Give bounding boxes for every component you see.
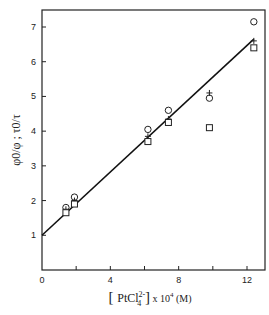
y-tick-label: 5	[31, 91, 36, 101]
plus-marker	[206, 90, 212, 96]
plot-border	[42, 10, 265, 270]
data-points	[63, 19, 257, 216]
y-axis-title: φ0/φ ; τ0/τ	[9, 114, 23, 166]
square-marker	[206, 125, 212, 131]
y-tick-label: 2	[31, 196, 36, 206]
y-tick-label: 1	[31, 230, 36, 240]
x-axis-label: [ PtCl2-4 ] x 104 (M)	[108, 289, 191, 308]
x-tick-label: 8	[176, 275, 181, 285]
square-marker	[71, 201, 77, 207]
square-marker	[251, 45, 257, 51]
circle-marker	[145, 126, 151, 132]
circle-marker	[165, 107, 171, 113]
y-tick-label: 4	[31, 126, 36, 136]
plus-marker	[251, 38, 257, 44]
x-tick-label: 4	[108, 275, 113, 285]
circle-marker	[251, 19, 257, 25]
square-marker	[145, 139, 151, 145]
y-axis-ticks: 1234567	[31, 22, 46, 240]
y-tick-label: 7	[31, 22, 36, 32]
x-tick-label: 0	[39, 275, 44, 285]
y-axis-label: φ0/φ ; τ0/τ	[9, 114, 23, 166]
stern-volmer-chart: 04812 1234567 φ0/φ ; τ0/τ [ PtCl2-4 ] x …	[0, 0, 269, 315]
y-tick-label: 3	[31, 161, 36, 171]
x-axis-ticks: 04812	[39, 266, 252, 285]
plot-frame	[42, 10, 265, 270]
x-axis-title: [ PtCl2-4 ] x 104 (M)	[108, 289, 191, 308]
square-marker	[165, 119, 171, 125]
square-marker	[63, 210, 69, 216]
x-tick-label: 12	[242, 275, 252, 285]
y-tick-label: 6	[31, 57, 36, 67]
